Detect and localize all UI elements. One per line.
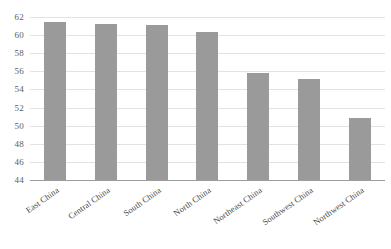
y-tick-label: 58 [15,48,24,58]
x-tick-label: East China [24,185,61,215]
bar [95,24,117,180]
bar-slot [233,17,284,180]
bar [196,32,218,181]
x-axis-category-labels: East ChinaCentral ChinaSouth ChinaNorth … [30,181,385,249]
x-label-slot: Central China [81,181,132,249]
bar [349,118,371,180]
bar-slot [81,17,132,180]
y-tick-label: 62 [15,12,24,22]
bar [247,73,269,180]
bar [298,79,320,180]
bar-chart: 44464850525456586062 East ChinaCentral C… [0,0,391,249]
bar-slot [30,17,81,180]
bar [146,25,168,180]
y-tick-label: 50 [15,121,24,131]
y-tick-label: 48 [15,139,24,149]
y-tick-label: 52 [15,103,24,113]
bar [44,22,66,180]
y-tick-label: 44 [15,175,24,185]
y-tick-label: 56 [15,66,24,76]
y-tick-label: 60 [15,30,24,40]
y-axis-tick-labels: 44464850525456586062 [0,17,24,180]
x-label-slot: Northwest China [334,181,385,249]
plot-area [30,17,385,180]
bar-slot [334,17,385,180]
bar-slot [182,17,233,180]
bars [30,17,385,180]
bar-slot [284,17,335,180]
bar-slot [131,17,182,180]
y-tick-label: 46 [15,157,24,167]
y-tick-label: 54 [15,84,24,94]
